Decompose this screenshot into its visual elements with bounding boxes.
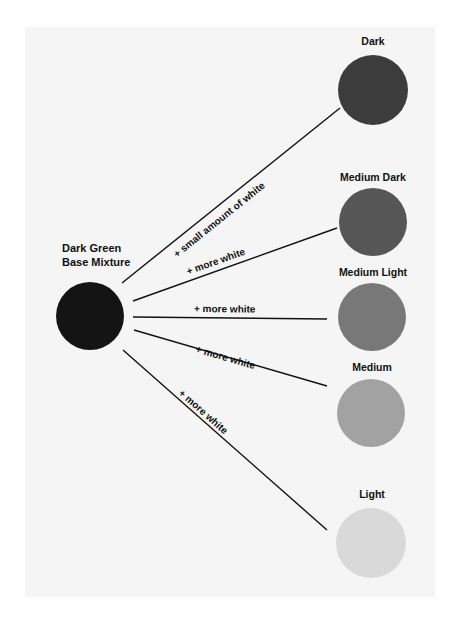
tint-diagram: + small amount of white + more white + m… [0, 0, 458, 620]
swatch-medium-dark [339, 188, 407, 256]
edge-line-medium-light [133, 317, 327, 319]
base-swatch [56, 282, 124, 350]
edge-label-dark: + small amount of white [171, 180, 267, 260]
base-label-line1: Dark Green [62, 242, 122, 254]
swatch-light [336, 508, 406, 578]
swatch-label-medium-dark: Medium Dark [340, 171, 406, 183]
swatch-dark [338, 55, 408, 125]
base-label-line2: Base Mixture [62, 256, 130, 268]
edge-label-medium: + more white [194, 343, 256, 371]
swatch-label-light: Light [359, 488, 385, 500]
swatch-medium [337, 379, 405, 447]
swatch-label-medium-light: Medium Light [339, 266, 408, 278]
swatch-label-medium: Medium [352, 361, 392, 373]
swatch-medium-light [338, 283, 406, 351]
edge-label-medium-dark: + more white [185, 246, 247, 277]
edge-line-medium-dark [133, 228, 337, 301]
swatch-label-dark: Dark [361, 35, 385, 47]
edge-label-medium-light: + more white [194, 303, 256, 315]
edge-label-light: + more white [177, 387, 231, 436]
